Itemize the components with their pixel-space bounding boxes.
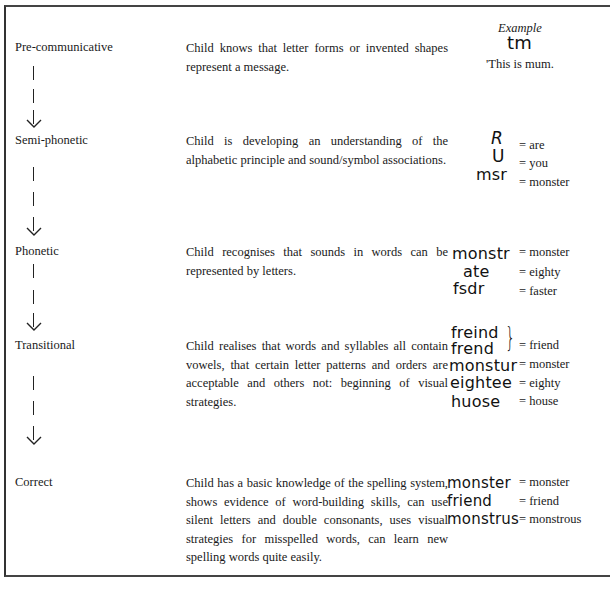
example-gloss: = faster — [519, 284, 557, 299]
example-gloss: 'This is mum. — [486, 57, 554, 72]
example-gloss: = house — [519, 394, 558, 409]
stage-phonetic: Phonetic — [15, 244, 59, 259]
example-gloss: = monstrous — [519, 512, 581, 527]
handwritten-example: monstrus — [447, 510, 519, 528]
down-arrow-icon — [22, 370, 46, 450]
handwritten-example: tm — [507, 32, 532, 53]
example-gloss: = friend — [519, 494, 559, 509]
example-gloss: = eighty — [519, 265, 560, 280]
handwritten-example: eightee — [450, 373, 512, 392]
handwritten-example: msr — [476, 165, 507, 184]
down-arrow-icon — [22, 160, 46, 240]
description-phonetic: Child recognises that sounds in words ca… — [186, 243, 448, 280]
handwritten-example: R — [491, 128, 503, 148]
description-transitional: Child realises that words and syllables … — [186, 337, 448, 411]
example-gloss: = you — [519, 156, 548, 171]
example-gloss: = monster — [519, 357, 569, 372]
handwritten-example: U — [492, 146, 505, 166]
stage-transitional: Transitional — [15, 338, 75, 353]
example-gloss: = monster — [519, 245, 569, 260]
example-gloss: = monster — [519, 175, 569, 190]
example-gloss: = are — [519, 138, 544, 153]
example-gloss: = eighty — [519, 376, 560, 391]
stage-semi-phonetic: Semi-phonetic — [15, 133, 88, 148]
example-gloss: = friend — [519, 338, 559, 353]
handwritten-example: fsdr — [453, 279, 485, 298]
description-pre-communicative: Child knows that letter forms or invente… — [186, 39, 448, 76]
handwritten-example: friend — [447, 492, 492, 510]
stage-correct: Correct — [15, 475, 52, 490]
down-arrow-icon — [22, 264, 46, 334]
down-arrow-icon — [22, 58, 46, 130]
handwritten-example: huose — [451, 392, 500, 411]
description-semi-phonetic: Child is developing an understanding of … — [186, 132, 448, 169]
brace-icon: } — [505, 322, 515, 352]
handwritten-example: monstr — [452, 244, 510, 263]
stage-pre-communicative: Pre-communicative — [15, 40, 113, 55]
description-correct: Child has a basic knowledge of the spell… — [186, 474, 448, 567]
handwritten-example: monster — [447, 474, 511, 492]
example-gloss: = monster — [519, 475, 569, 490]
